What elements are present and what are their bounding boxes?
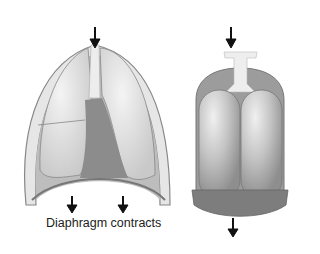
- arrow-down-icon: [226, 27, 236, 48]
- bell-jar-model: [192, 52, 288, 216]
- left-balloon: [199, 90, 240, 200]
- arrow-down-icon: [118, 196, 128, 213]
- thoracic-cavity: [25, 45, 170, 205]
- arrow-down-icon: [67, 196, 77, 213]
- right-balloon: [241, 90, 282, 200]
- arrow-down-icon: [228, 218, 238, 237]
- rubber-sheet: [192, 190, 288, 216]
- caption: Diaphragm contracts: [46, 216, 161, 230]
